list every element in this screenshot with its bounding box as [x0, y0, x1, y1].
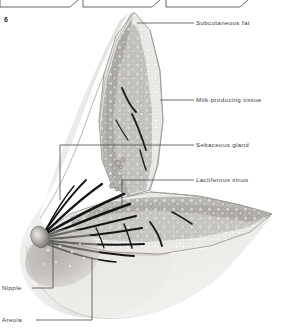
label-sebaceous-gland: Sebaceous gland: [196, 141, 249, 149]
label-areola: Areola: [2, 316, 22, 324]
text-layer: 6 Subcutaneous fat Milk-producing tissue…: [0, 0, 292, 329]
label-nipple: Nipple: [2, 284, 22, 292]
label-lactiferous-sinus: Lactiferous sinus: [196, 176, 248, 184]
label-subcutaneous-fat: Subcutaneous fat: [196, 19, 250, 27]
figure-number: 6: [4, 15, 8, 24]
label-milk-producing-tissue: Milk-producing tissue: [196, 96, 261, 104]
figure-breast-anatomy: 6 Subcutaneous fat Milk-producing tissue…: [0, 0, 292, 329]
